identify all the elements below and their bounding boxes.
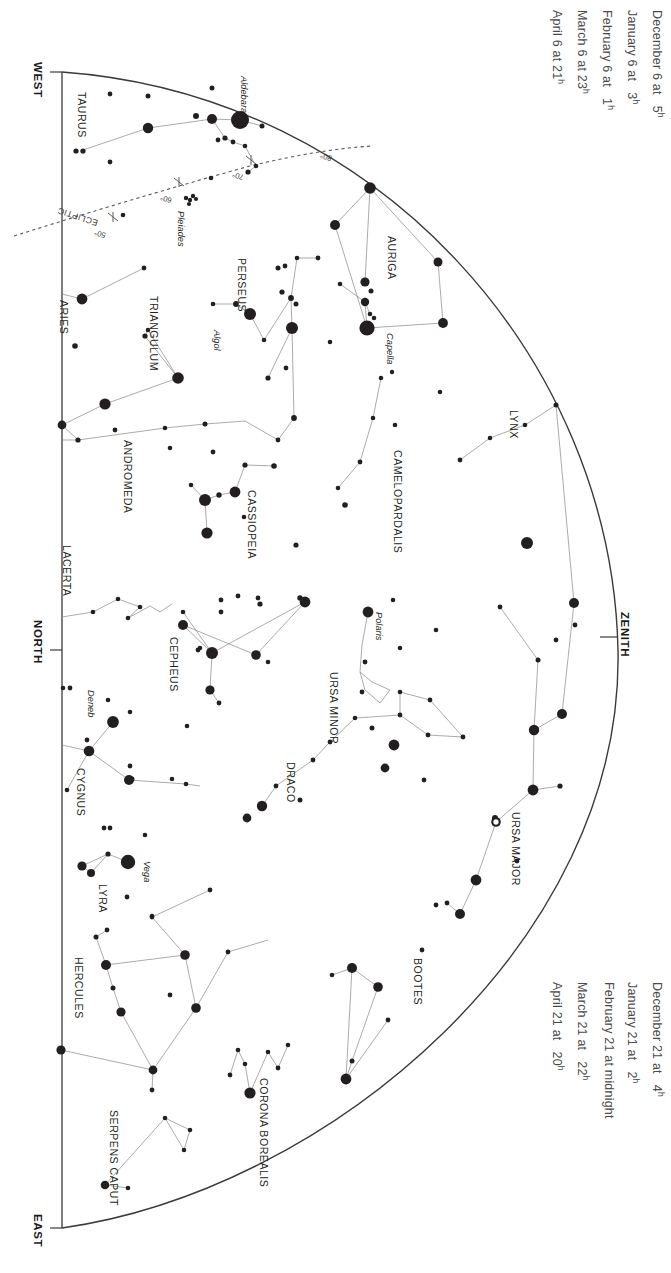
star-marker (422, 778, 427, 783)
star-marker (107, 716, 119, 728)
star-label-deneb: Deneb (86, 690, 96, 717)
star-marker (58, 421, 67, 430)
star-label-polaris: Polaris (374, 612, 384, 640)
star-marker (116, 597, 121, 602)
star-marker (554, 638, 559, 643)
constellation-label-perseus: PERSEUS (236, 258, 248, 312)
star-marker (108, 826, 113, 831)
star-marker (203, 422, 208, 427)
star-marker (557, 709, 567, 719)
constellation-label-ursa-minor: URSA MINOR (328, 672, 340, 744)
bottom-date-row-3: March 21 at 22h (575, 982, 591, 1081)
star-marker (371, 416, 376, 421)
star-marker (283, 264, 288, 269)
star-marker (216, 492, 221, 497)
star-marker (488, 436, 493, 441)
star-marker (458, 458, 463, 463)
hour-unit: h (631, 99, 641, 104)
star-marker (138, 605, 143, 610)
direction-label-zenith: ZENITH (619, 612, 631, 657)
star-marker (360, 277, 369, 286)
time-text: 20 (550, 1052, 564, 1066)
star-marker (217, 701, 222, 706)
star-marker (210, 86, 215, 91)
star-marker (353, 716, 358, 721)
star-marker (438, 318, 448, 328)
hour-unit: h (581, 89, 591, 94)
star-marker (347, 963, 357, 973)
star-marker (142, 266, 147, 271)
star-marker (180, 950, 190, 960)
star-marker (360, 690, 365, 695)
star-marker (279, 289, 284, 294)
star-marker (256, 596, 261, 601)
star-label-pleiades: Pleiades (176, 211, 186, 247)
star-marker (434, 628, 439, 633)
star-chart: December 6 at 5h January 6 at 3h Februar… (0, 0, 671, 1273)
star-marker (245, 169, 250, 174)
star-marker (182, 1148, 187, 1153)
hour-unit: h (556, 79, 566, 84)
constellation-label-ursa-major: URSA MAJOR (510, 812, 522, 886)
star-marker (170, 777, 175, 782)
star-marker (381, 764, 390, 773)
star-marker (150, 1088, 155, 1093)
star-marker (291, 415, 297, 421)
date-text: March 6 at 23 (575, 10, 589, 89)
star-marker (116, 1007, 125, 1016)
constellation-label-lynx: LYNX (508, 410, 520, 439)
time-text: 4 (650, 1085, 664, 1092)
star-marker (341, 1074, 352, 1085)
star-marker (363, 660, 368, 665)
star-marker (168, 993, 173, 998)
constellation-label-aries: ARIES (58, 300, 70, 334)
star-marker (208, 888, 213, 893)
star-marker (85, 738, 90, 743)
star-marker (398, 690, 403, 695)
star-marker (286, 1043, 291, 1048)
star-marker (194, 197, 198, 201)
star-marker (251, 650, 261, 660)
star-marker (361, 298, 369, 306)
star-marker (163, 426, 168, 431)
star-marker (398, 713, 403, 718)
star-marker (168, 446, 173, 451)
star-marker (358, 460, 363, 465)
star-marker (393, 423, 398, 428)
star-marker (216, 138, 221, 143)
star-marker (557, 783, 562, 788)
constellation-label-bootes: BOOTES (412, 958, 424, 1005)
star-marker (102, 826, 107, 831)
constellation-label-taurus: TAURUS (76, 92, 88, 138)
star-marker (276, 438, 281, 443)
star-marker (75, 437, 80, 442)
star-marker (368, 312, 373, 317)
star-label-aldebaran: Aldebaran (239, 76, 249, 118)
date-text: December 21 at (650, 982, 664, 1074)
top-date-row-0: December 6 at 5h (650, 10, 666, 118)
hour-unit: h (556, 1066, 566, 1071)
star-marker (295, 256, 300, 261)
star-marker (461, 735, 466, 740)
direction-label-east: EAST (32, 1214, 44, 1247)
star-marker (128, 764, 133, 769)
star-marker (206, 647, 218, 659)
star-marker (311, 758, 316, 763)
star-marker (84, 746, 95, 757)
date-text: March 21 at (575, 982, 589, 1050)
constellation-label-serpens-caput: SERPENS CAPUT (108, 1110, 120, 1206)
star-marker (228, 1073, 233, 1078)
star-marker (236, 594, 241, 599)
star-marker (445, 901, 450, 906)
star-marker (391, 598, 396, 603)
star-marker (536, 658, 541, 663)
direction-label-north: NORTH (32, 620, 44, 664)
star-marker (330, 220, 340, 230)
star-marker (438, 390, 443, 395)
star-marker (244, 1087, 255, 1098)
constellation-label-lacerta: LACERTA (61, 545, 73, 596)
direction-label-west: WEST (32, 62, 44, 98)
star-marker (521, 537, 533, 549)
star-marker (124, 775, 134, 785)
star-marker (73, 148, 78, 153)
